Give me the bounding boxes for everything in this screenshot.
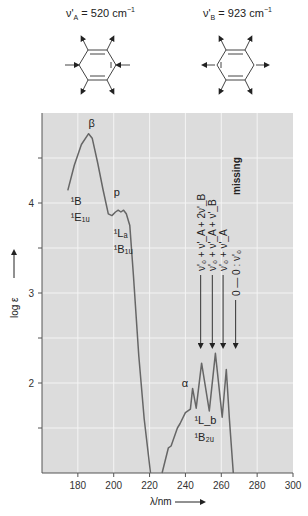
band-label: p [114, 186, 120, 198]
benzene-mode-b-icon [204, 38, 267, 92]
x-tick-label: 280 [249, 480, 266, 491]
missing-label: missing [231, 157, 242, 195]
benzene-mode-a-icon [65, 38, 130, 92]
transition-label: ν'₀ + ν'_A + 2ν'_B [196, 194, 207, 271]
transition-label: ν'₀ + ν'_A [218, 229, 229, 271]
x-axis-label: λ/nm [150, 496, 172, 507]
y-tick-label: 2 [28, 378, 34, 389]
band-label: ¹B₂ᵤ [194, 431, 213, 443]
band-label: ¹Lₐ [114, 227, 129, 239]
x-tick-label: 240 [177, 480, 194, 491]
band-label: ¹B [71, 195, 82, 207]
band-label: α [182, 377, 189, 389]
band-label: ¹E₁ᵤ [71, 211, 90, 223]
y-tick-label: 4 [28, 198, 34, 209]
x-tick-label: 260 [213, 480, 230, 491]
transition-label: ν'₀ + ν'_A + ν'_B [207, 199, 218, 271]
x-tick-label: 200 [105, 480, 122, 491]
x-tick-label: 300 [285, 480, 302, 491]
y-axis-label: log ε [9, 297, 20, 318]
band-label: β [89, 117, 95, 129]
transition-label: 0 — 0 : ν'₀ [231, 250, 242, 296]
band-label: ¹B₁ᵤ [114, 243, 133, 255]
x-tick-label: 220 [141, 480, 158, 491]
chart-svg: 180200220240260280300234 β¹B¹E₁ᵤp¹Lₐ¹B₁ᵤ… [0, 0, 308, 516]
band-label: ¹L_b [194, 414, 216, 426]
x-tick-label: 180 [70, 480, 87, 491]
y-tick-label: 3 [28, 288, 34, 299]
